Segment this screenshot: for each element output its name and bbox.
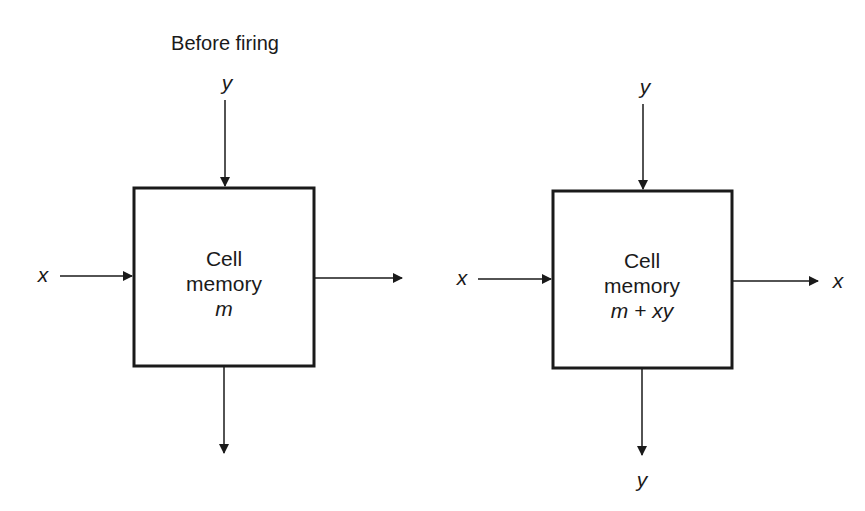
input-x-label-after: x bbox=[457, 267, 468, 288]
cell-label-after: Cell memory m + xy bbox=[604, 248, 680, 323]
cell-label-line1: Cell bbox=[604, 248, 680, 273]
memory-value-before: m bbox=[186, 296, 262, 321]
cell-label-line2: memory bbox=[604, 273, 680, 298]
diagram-title: Before firing bbox=[171, 33, 279, 53]
output-x-label-after: x bbox=[833, 270, 844, 291]
diagram-canvas bbox=[0, 0, 865, 511]
cell-label-before: Cell memory m bbox=[186, 246, 262, 321]
input-y-label-after: y bbox=[640, 76, 651, 97]
cell-label-line2: memory bbox=[186, 271, 262, 296]
cell-label-line1: Cell bbox=[186, 246, 262, 271]
input-y-label-before: y bbox=[222, 72, 233, 93]
memory-value-after: m + xy bbox=[604, 298, 680, 323]
output-y-label-after: y bbox=[637, 469, 648, 490]
input-x-label-before: x bbox=[38, 264, 49, 285]
